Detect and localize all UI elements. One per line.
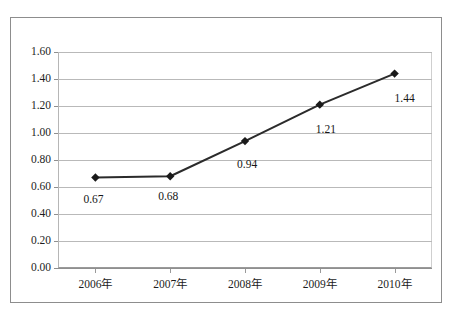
data-point-marker[interactable] <box>390 69 398 77</box>
data-point-marker[interactable] <box>166 172 174 180</box>
data-point-label: 1.21 <box>316 124 336 136</box>
data-point-marker[interactable] <box>91 173 99 181</box>
chart-screenshot: ·· ····· ·· ····· 0.000.200.400.600.801.… <box>0 0 452 311</box>
data-point-marker[interactable] <box>316 100 324 108</box>
data-point-marker[interactable] <box>241 137 249 145</box>
data-point-label: 0.68 <box>158 191 178 203</box>
line-series-layer <box>0 0 452 311</box>
data-point-label: 1.44 <box>395 93 415 105</box>
data-point-label: 0.94 <box>237 159 257 171</box>
data-point-label: 0.67 <box>83 194 103 206</box>
